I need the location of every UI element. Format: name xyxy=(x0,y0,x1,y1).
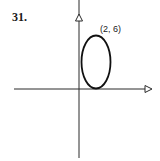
coordinate-graph xyxy=(0,0,160,161)
vertex-point-label: (2, 6) xyxy=(100,25,121,34)
y-axis-arrow-icon xyxy=(76,14,83,21)
ellipse-curve xyxy=(82,36,111,89)
x-axis-arrow-icon xyxy=(145,86,152,93)
